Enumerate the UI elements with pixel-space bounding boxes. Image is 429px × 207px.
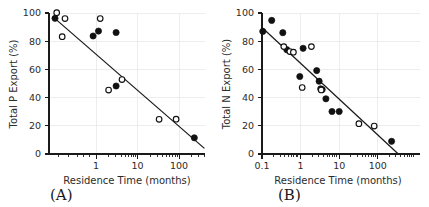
x-axis-title: Residence Time (months): [274, 175, 402, 186]
panel-b-plot: 0 20 40 60 80 100 0.1 1 10 100 Residence…: [215, 0, 429, 207]
panel-b-x-ticks: [262, 154, 414, 159]
chart-panel-a: 0 20 40 60 80 100 1 10 100 Residence Tim…: [0, 0, 214, 207]
figure-container: 0 20 40 60 80 100 1 10 100 Residence Tim…: [0, 0, 429, 207]
panel-label-a: (A): [50, 186, 73, 204]
x-tick-label: 10: [132, 160, 144, 171]
panel-label-b: (B): [278, 186, 301, 204]
x-tick-label: 10: [333, 160, 345, 171]
panel-b-y-tick-labels: 0 20 40 60 80 100: [236, 7, 254, 159]
y-tick-label: 20: [242, 120, 254, 131]
x-tick-label: 100: [170, 160, 188, 171]
y-axis-title: Total P Export (%): [8, 39, 19, 129]
y-tick-label: 0: [248, 148, 254, 159]
y-tick-label: 60: [29, 64, 41, 75]
x-tick-label: 0.1: [254, 160, 269, 171]
chart-panel-b: 0 20 40 60 80 100 0.1 1 10 100 Residence…: [215, 0, 429, 207]
y-tick-label: 0: [35, 148, 41, 159]
x-tick-label: 1: [93, 160, 99, 171]
panel-a-y-tick-labels: 0 20 40 60 80 100: [23, 7, 41, 159]
y-tick-label: 100: [236, 7, 254, 18]
panel-b-x-tick-labels: 0.1 1 10 100: [254, 160, 386, 171]
y-tick-label: 80: [29, 36, 41, 47]
y-tick-label: 60: [242, 64, 254, 75]
panel-a-plot: 0 20 40 60 80 100 1 10 100 Residence Tim…: [0, 0, 214, 207]
x-tick-label: 1: [298, 160, 304, 171]
y-tick-label: 100: [23, 7, 41, 18]
panel-a-x-tick-labels: 1 10 100: [93, 160, 188, 171]
x-axis-title: Residence Time (months): [63, 175, 191, 186]
y-tick-label: 20: [29, 120, 41, 131]
panel-a-fit-line: [54, 17, 205, 148]
panel-b-data-points-open: [281, 44, 377, 129]
x-tick-label: 100: [369, 160, 387, 171]
panel-a-x-ticks: [59, 154, 205, 159]
panel-a-y-ticks: [45, 13, 49, 154]
y-tick-label: 80: [242, 36, 254, 47]
y-tick-label: 40: [29, 92, 41, 103]
y-tick-label: 40: [242, 92, 254, 103]
y-axis-title: Total N Export (%): [221, 39, 232, 131]
panel-a-data-points-open: [54, 10, 179, 122]
